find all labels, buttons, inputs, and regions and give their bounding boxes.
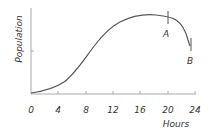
point-label-b: B bbox=[187, 56, 193, 66]
y-axis-label: Population bbox=[14, 15, 24, 63]
x-tick-label-16: 16 bbox=[134, 105, 146, 115]
population-curve bbox=[31, 15, 190, 93]
x-tick-label-20: 20 bbox=[162, 105, 174, 115]
point-label-a: A bbox=[162, 29, 169, 39]
x-tick-label-4: 4 bbox=[55, 105, 61, 115]
x-tick-label-0: 0 bbox=[28, 105, 34, 115]
x-tick-label-12: 12 bbox=[107, 105, 119, 115]
x-axis-label: Hours bbox=[163, 119, 190, 129]
x-tick-label-24: 24 bbox=[189, 105, 201, 115]
x-tick-label-8: 8 bbox=[83, 105, 89, 115]
chart: 0 4 8 12 16 20 24 Hours Population A B bbox=[0, 0, 213, 135]
